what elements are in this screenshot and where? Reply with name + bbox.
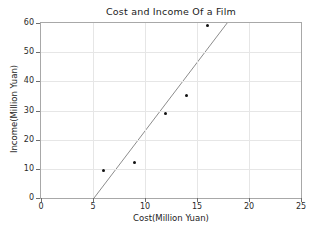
y-axis-tick bbox=[36, 169, 40, 170]
y-axis-tick-label: 40 bbox=[10, 76, 34, 85]
gridline-vertical bbox=[249, 23, 250, 198]
gridline-horizontal bbox=[41, 111, 301, 112]
data-point bbox=[185, 94, 188, 97]
gridline-vertical bbox=[197, 23, 198, 198]
y-axis-tick bbox=[36, 111, 40, 112]
x-axis-tick-label: 20 bbox=[234, 202, 264, 211]
x-axis-label: Cost(Million Yuan) bbox=[40, 213, 302, 223]
plot-area bbox=[40, 22, 302, 199]
x-axis-tick-label: 25 bbox=[286, 202, 316, 211]
data-point bbox=[102, 169, 105, 172]
gridline-horizontal bbox=[41, 52, 301, 53]
gridline-horizontal bbox=[41, 81, 301, 82]
plot-inner bbox=[41, 23, 301, 198]
gridline-horizontal bbox=[41, 140, 301, 141]
y-axis-tick-label: 60 bbox=[10, 18, 34, 27]
gridline-vertical bbox=[145, 23, 146, 198]
chart-screenshot: Cost and Income Of a Film Income(Million… bbox=[0, 0, 317, 234]
y-axis-tick bbox=[36, 198, 40, 199]
y-axis-tick bbox=[36, 140, 40, 141]
y-axis-tick-label: 0 bbox=[10, 193, 34, 202]
y-axis-tick bbox=[36, 23, 40, 24]
gridline-vertical bbox=[93, 23, 94, 198]
x-axis-tick-label: 15 bbox=[182, 202, 212, 211]
x-axis-tick-label: 0 bbox=[26, 202, 56, 211]
y-axis-tick-label: 10 bbox=[10, 164, 34, 173]
y-axis-tick bbox=[36, 81, 40, 82]
y-axis-tick-label: 50 bbox=[10, 47, 34, 56]
data-point bbox=[133, 161, 136, 164]
x-axis-tick-label: 5 bbox=[78, 202, 108, 211]
data-point bbox=[206, 24, 209, 27]
data-point bbox=[164, 112, 167, 115]
chart-title: Cost and Income Of a Film bbox=[40, 6, 302, 17]
y-axis-tick bbox=[36, 52, 40, 53]
gridline-horizontal bbox=[41, 169, 301, 170]
x-axis-tick-label: 10 bbox=[130, 202, 160, 211]
y-axis-tick-label: 30 bbox=[10, 106, 34, 115]
y-axis-tick-label: 20 bbox=[10, 135, 34, 144]
